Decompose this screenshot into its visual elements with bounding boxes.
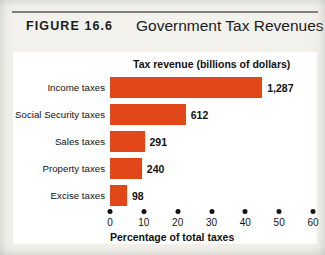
bar-value-label: 240 (147, 163, 165, 175)
category-label: Income taxes (47, 82, 105, 93)
x-tick-dot (108, 209, 113, 214)
x-axis-title: Percentage of total taxes (110, 231, 234, 243)
header-rule (12, 11, 318, 13)
bar-value-label: 291 (150, 136, 168, 148)
bar (110, 158, 142, 179)
page-title: Government Tax Revenues (136, 17, 324, 35)
bar-value-label: 1,287 (267, 82, 293, 94)
x-tick-label: 0 (107, 217, 113, 228)
bar-row: Property taxes240 (13, 157, 317, 183)
category-label: Social Security taxes (15, 109, 105, 120)
x-axis: 0102030405060 Percentage of total taxes (13, 209, 317, 245)
x-tick-dot (209, 209, 214, 214)
bar-row: Sales taxes291 (13, 130, 317, 156)
x-tick-dot (277, 209, 282, 214)
bar-row: Excise taxes98 (13, 184, 317, 210)
x-tick-label: 60 (307, 217, 318, 228)
chart-plot-area: Tax revenue (billions of dollars) Income… (13, 52, 317, 244)
bar (110, 104, 186, 125)
x-tick-label: 10 (138, 217, 149, 228)
bar-row: Income taxes1,287 (13, 76, 317, 102)
x-tick-dot (141, 209, 146, 214)
bar-row: Social Security taxes612 (13, 103, 317, 129)
category-label: Sales taxes (55, 136, 105, 147)
figure-number-label: FIGURE 16.6 (26, 19, 113, 33)
x-tick-label: 50 (274, 217, 285, 228)
x-tick-dot (311, 209, 316, 214)
x-tick-label: 30 (206, 217, 217, 228)
x-tick-dot (243, 209, 248, 214)
x-tick-dot (175, 209, 180, 214)
bar-value-label: 612 (191, 109, 209, 121)
bar-value-label: 98 (132, 190, 144, 202)
x-tick-label: 40 (240, 217, 251, 228)
bar (110, 77, 262, 98)
value-axis-title: Tax revenue (billions of dollars) (133, 58, 290, 70)
x-tick-label: 20 (172, 217, 183, 228)
bar (110, 131, 145, 152)
bar (110, 185, 127, 206)
category-label: Excise taxes (51, 190, 105, 201)
figure-container: FIGURE 16.6 Government Tax Revenues Tax … (0, 0, 325, 255)
category-label: Property taxes (43, 163, 105, 174)
